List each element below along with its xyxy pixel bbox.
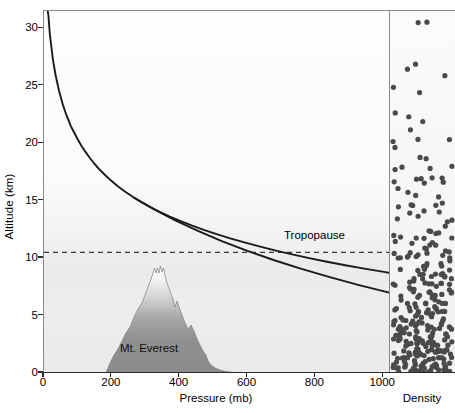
density-dot — [391, 233, 396, 238]
density-dot — [404, 325, 409, 330]
density-dot — [416, 20, 421, 25]
density-dot — [443, 332, 448, 337]
plot-area — [43, 10, 390, 373]
density-dot — [407, 285, 412, 290]
density-dot — [393, 110, 398, 115]
density-dot — [391, 322, 396, 327]
y-tick-mark-15 — [38, 199, 43, 200]
density-dot — [422, 180, 427, 185]
y-tick-mark-25 — [38, 84, 43, 85]
density-dot — [449, 235, 454, 240]
density-dot — [406, 253, 411, 258]
y-tick-mark-10 — [38, 256, 43, 257]
density-dot — [421, 208, 426, 213]
density-dot — [413, 193, 418, 198]
density-dot — [449, 290, 454, 295]
density-dot — [434, 307, 439, 312]
density-dot — [398, 255, 403, 260]
density-dot — [447, 282, 452, 287]
density-dot — [411, 289, 416, 294]
density-dot — [422, 280, 427, 285]
density-dot — [403, 362, 408, 367]
density-dot — [422, 366, 427, 371]
y-tick-mark-0 — [38, 371, 43, 372]
density-dot — [433, 349, 438, 354]
density-dot — [437, 326, 442, 331]
density-dot — [391, 336, 396, 341]
density-dot — [421, 272, 426, 277]
density-dot — [411, 276, 416, 281]
density-dot — [409, 241, 414, 246]
density-dot — [413, 305, 418, 310]
density-dot — [433, 271, 438, 276]
density-dot — [414, 329, 419, 334]
density-dot — [401, 348, 406, 353]
density-dot — [400, 317, 405, 322]
density-dot — [392, 167, 397, 172]
density-dot — [407, 305, 412, 310]
y-tick-mark-20 — [38, 142, 43, 143]
y-tick-0: 0 — [12, 366, 38, 378]
density-dot — [405, 67, 410, 72]
density-dot — [391, 351, 396, 356]
density-dot — [396, 338, 401, 343]
y-tick-25: 25 — [12, 79, 38, 91]
y-tick-20: 20 — [12, 136, 38, 148]
density-dot — [398, 331, 403, 336]
density-dot — [440, 200, 445, 205]
density-dot — [403, 343, 408, 348]
density-dot — [434, 284, 439, 289]
y-tick-mark-30 — [38, 27, 43, 28]
density-dot — [413, 361, 418, 366]
density-dot — [410, 203, 415, 208]
x-tick-1000: 1000 — [369, 376, 395, 388]
density-dot — [443, 224, 448, 229]
density-dot — [445, 219, 450, 224]
density-dot — [398, 267, 403, 272]
density-dot — [406, 114, 411, 119]
density-dot — [392, 283, 397, 288]
density-dot — [416, 319, 421, 324]
x-tick-600: 600 — [237, 376, 256, 388]
density-dot — [447, 249, 452, 254]
density-dot — [439, 292, 444, 297]
density-dot — [414, 236, 419, 241]
density-dot — [394, 359, 399, 364]
y-tick-mark-5 — [38, 314, 43, 315]
density-dot — [414, 177, 419, 182]
density-dot — [439, 355, 444, 360]
density-dot — [407, 280, 412, 285]
density-dot — [417, 155, 422, 160]
density-dot — [447, 137, 452, 142]
density-dot — [449, 218, 454, 223]
density-dot — [424, 20, 429, 25]
density-dot — [404, 339, 409, 344]
tropopause-label: Tropopause — [284, 229, 345, 241]
density-dot — [407, 352, 412, 357]
density-dot — [415, 268, 420, 273]
y-tick-15: 15 — [12, 194, 38, 206]
density-dot — [423, 301, 428, 306]
density-dots — [390, 11, 455, 373]
density-dot — [436, 194, 441, 199]
y-tick-5: 5 — [12, 309, 38, 321]
density-dot — [440, 253, 445, 258]
density-dot — [414, 346, 419, 351]
density-dot — [390, 139, 395, 144]
density-dot — [449, 276, 454, 281]
density-dot — [421, 236, 426, 241]
density-dot — [396, 204, 401, 209]
density-dot — [413, 62, 418, 67]
density-dot — [417, 338, 422, 343]
density-dot — [448, 352, 453, 357]
density-dot — [445, 343, 450, 348]
density-dot — [405, 190, 410, 195]
density-dot — [391, 85, 396, 90]
y-axis-tick-labels: 051015202530 — [8, 0, 38, 413]
density-panel — [389, 10, 455, 373]
density-dot — [398, 234, 403, 239]
x-axis-title: Pressure (mb) — [43, 392, 389, 404]
mt-everest-shape — [106, 266, 244, 373]
density-dot — [395, 216, 400, 221]
x-tick-400: 400 — [169, 376, 188, 388]
